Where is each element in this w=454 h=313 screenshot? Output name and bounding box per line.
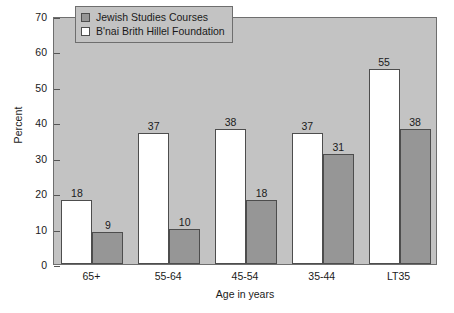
x-axis-tick-labels: 65+55-6445-5435-44LT35 bbox=[53, 270, 437, 284]
bar bbox=[61, 200, 92, 264]
y-axis-tick-label: 30 bbox=[18, 154, 47, 164]
bar-value-label: 31 bbox=[317, 142, 360, 153]
bar-value-label: 9 bbox=[86, 220, 129, 231]
y-axis-tick-label: 50 bbox=[18, 83, 47, 93]
bar bbox=[138, 133, 169, 264]
white-swatch bbox=[81, 27, 90, 36]
bar bbox=[400, 129, 431, 264]
gray-swatch bbox=[81, 13, 90, 22]
bar-value-label: 38 bbox=[209, 117, 252, 128]
bar bbox=[169, 229, 200, 264]
bar-chart: Percent 010203040506070 1893710381837315… bbox=[0, 0, 454, 313]
bar-value-label: 37 bbox=[132, 121, 175, 132]
y-axis-tick-labels: 010203040506070 bbox=[18, 17, 47, 265]
legend-item-label: Jewish Studies Courses bbox=[96, 12, 208, 23]
y-axis-tick-label: 10 bbox=[18, 225, 47, 235]
bar-value-label: 37 bbox=[286, 121, 329, 132]
legend-item: Jewish Studies Courses bbox=[81, 10, 225, 24]
x-axis-tick-label: LT35 bbox=[359, 270, 439, 282]
chart-legend: Jewish Studies CoursesB'nai Brith Hillel… bbox=[75, 6, 233, 43]
bar bbox=[369, 69, 400, 264]
y-axis-tick-label: 0 bbox=[18, 260, 47, 270]
y-axis-tick-label: 60 bbox=[18, 47, 47, 57]
x-axis-tick-label: 55-64 bbox=[128, 270, 208, 282]
legend-item-label: B'nai Brith Hillel Foundation bbox=[96, 26, 225, 37]
bar bbox=[92, 232, 123, 264]
bar-value-label: 55 bbox=[363, 57, 406, 68]
bar-value-label: 18 bbox=[55, 188, 98, 199]
bar-value-label: 38 bbox=[394, 117, 437, 128]
y-axis-tick-label: 20 bbox=[18, 189, 47, 199]
bar bbox=[246, 200, 277, 264]
x-axis-tick-label: 35-44 bbox=[282, 270, 362, 282]
x-axis-tick-label: 65+ bbox=[51, 270, 131, 282]
y-axis-tick-mark bbox=[54, 266, 60, 267]
plot-area: 1893710381837315538 bbox=[53, 17, 437, 265]
y-axis-tick-label: 40 bbox=[18, 118, 47, 128]
bars-layer: 1893710381837315538 bbox=[54, 18, 436, 264]
y-axis-tick-label: 70 bbox=[18, 12, 47, 22]
bar bbox=[323, 154, 354, 264]
x-axis-title: Age in years bbox=[53, 288, 437, 300]
bar-value-label: 18 bbox=[240, 188, 283, 199]
x-axis-tick-label: 45-54 bbox=[205, 270, 285, 282]
bar-value-label: 10 bbox=[163, 217, 206, 228]
legend-item: B'nai Brith Hillel Foundation bbox=[81, 24, 225, 38]
